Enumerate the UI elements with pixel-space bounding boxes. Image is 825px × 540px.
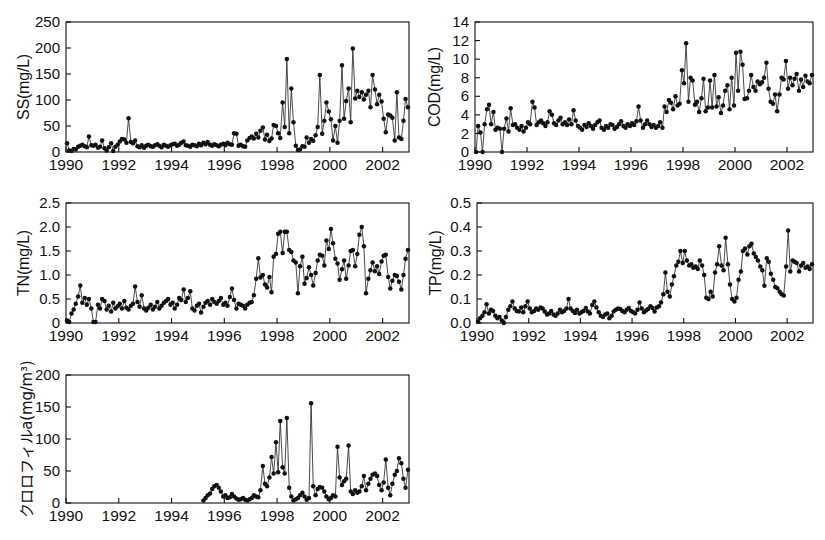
data-point <box>528 122 533 127</box>
data-point <box>769 272 774 277</box>
data-point <box>331 138 336 143</box>
y-tick-label: 0.2 <box>450 266 471 283</box>
x-tick-label: 1994 <box>154 327 189 344</box>
data-point <box>738 49 743 54</box>
data-point <box>78 283 83 288</box>
data-point <box>124 140 129 145</box>
x-tick-label: 2000 <box>313 156 348 173</box>
y-tick-label: 1.0 <box>39 266 60 283</box>
data-point <box>104 307 109 312</box>
data-point <box>491 110 496 115</box>
data-point <box>638 118 643 123</box>
data-point <box>386 485 391 490</box>
data-point <box>605 311 610 316</box>
data-point <box>263 137 268 142</box>
data-point <box>381 116 386 121</box>
data-point <box>278 136 283 141</box>
data-point <box>760 268 765 273</box>
data-point <box>632 123 637 128</box>
data-point <box>311 484 316 489</box>
data-point <box>703 109 708 114</box>
data-point <box>320 485 325 490</box>
data-point <box>478 130 483 135</box>
data-point <box>767 260 772 265</box>
data-point <box>307 496 312 501</box>
y-tick-label: 0.5 <box>39 290 60 307</box>
plot-tp: 0.00.10.20.30.40.51990199219941996199820… <box>415 183 825 351</box>
data-point <box>126 307 131 312</box>
data-point <box>397 456 402 461</box>
data-point <box>170 301 175 306</box>
data-point <box>782 293 787 298</box>
data-point <box>677 101 682 106</box>
y-axis-title-cod: COD(mg/L) <box>426 47 444 127</box>
x-tick-label: 1998 <box>666 156 700 173</box>
data-point <box>337 278 342 283</box>
data-point <box>353 264 358 269</box>
y-tick-label: 0.3 <box>450 242 471 259</box>
data-point <box>567 117 572 122</box>
y-tick-label: 250 <box>35 13 60 30</box>
data-point <box>386 275 391 280</box>
data-point <box>313 271 318 276</box>
data-point <box>344 277 349 282</box>
data-point <box>313 493 318 498</box>
data-point <box>788 269 793 274</box>
data-point <box>401 273 406 278</box>
data-point <box>311 283 316 288</box>
data-point <box>727 107 732 112</box>
data-point <box>256 495 261 500</box>
data-point <box>377 272 382 277</box>
data-point <box>686 100 691 105</box>
data-point <box>285 416 290 421</box>
data-point <box>370 260 375 265</box>
data-point <box>388 286 393 291</box>
x-tick-label: 1996 <box>615 327 649 344</box>
data-point <box>390 115 395 120</box>
data-point <box>366 482 371 487</box>
data-point <box>504 315 509 320</box>
data-point <box>89 306 94 311</box>
data-point <box>721 268 726 273</box>
data-point <box>93 320 98 325</box>
data-point <box>669 101 674 106</box>
data-point <box>360 225 365 230</box>
x-tick-label: 1990 <box>460 327 495 344</box>
y-tick-label: 150 <box>35 398 60 415</box>
data-point <box>315 125 320 130</box>
x-tick-label: 1992 <box>511 327 545 344</box>
data-point <box>665 290 670 295</box>
data-point <box>327 247 332 252</box>
data-point <box>327 109 332 114</box>
data-point <box>390 482 395 487</box>
data-point <box>333 494 338 499</box>
data-point <box>803 74 808 79</box>
data-point <box>532 105 537 110</box>
y-axis-title-tp: TP(mg/L) <box>426 230 444 295</box>
data-point <box>747 88 752 93</box>
data-point <box>364 93 369 98</box>
data-point <box>668 294 673 299</box>
data-point <box>482 310 487 315</box>
data-point <box>399 461 404 466</box>
data-point <box>745 96 750 101</box>
data-point <box>102 299 107 304</box>
data-point <box>664 110 669 115</box>
data-point <box>717 244 722 249</box>
data-point <box>133 138 138 143</box>
data-point <box>384 130 389 135</box>
data-point <box>710 294 715 299</box>
axes-frame <box>477 203 813 323</box>
data-point <box>109 309 114 314</box>
data-point <box>256 135 261 140</box>
data-point <box>353 96 358 101</box>
data-point <box>322 119 327 124</box>
data-point <box>111 149 116 154</box>
data-point <box>267 275 272 280</box>
x-tick-label: 1990 <box>458 156 493 173</box>
data-point <box>184 300 189 305</box>
data-point <box>278 419 283 424</box>
data-point <box>304 276 309 281</box>
x-tick-label: 2000 <box>313 327 348 344</box>
y-axis-title-ss: SS(mg/L) <box>15 54 33 120</box>
